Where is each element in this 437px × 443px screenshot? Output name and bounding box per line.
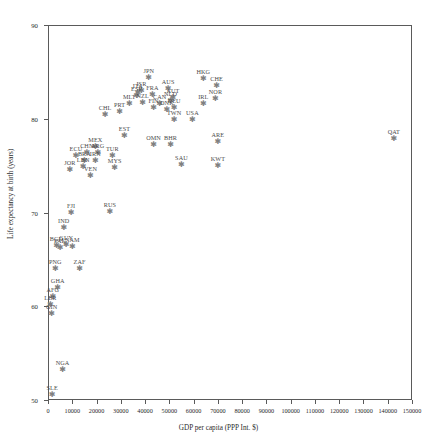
x-axis-label: GDP per capita (PPP Int. $)	[0, 424, 437, 432]
point-label: USA	[186, 109, 199, 115]
y-tick	[44, 213, 48, 214]
point-label: OMN	[146, 135, 161, 141]
x-tick-label: 30000	[113, 407, 128, 414]
y-tick-label: 70	[22, 209, 38, 216]
y-axis-label: Life expectancy at birth (years)	[7, 104, 15, 284]
x-tick	[48, 400, 49, 404]
x-tick-label: 140000	[378, 407, 397, 414]
point-label: DNK	[160, 100, 174, 106]
x-tick-label: 100000	[281, 407, 300, 414]
x-tick-label: 0	[46, 407, 49, 414]
point-label: BHR	[164, 135, 177, 141]
point-label: VEN	[84, 166, 97, 172]
y-tick	[44, 306, 48, 307]
point-label: ZAF	[74, 259, 86, 265]
point-label: SAU	[175, 154, 188, 160]
point-label: IRN	[90, 151, 101, 157]
scatter-point: ✱	[215, 162, 222, 170]
x-tick-label: 10000	[65, 407, 80, 414]
x-tick-label: 20000	[89, 407, 104, 414]
x-tick	[194, 400, 195, 404]
point-label: QAT	[388, 129, 400, 135]
x-tick-label: 60000	[186, 407, 201, 414]
point-label: SLE	[46, 385, 57, 391]
x-tick-label: 150000	[403, 407, 422, 414]
scatter-point: ✱	[212, 95, 219, 103]
scatter-point: ✱	[200, 100, 207, 108]
point-label: LBR	[44, 295, 56, 301]
scatter-point: ✱	[116, 108, 123, 116]
point-label: ARE	[212, 132, 225, 138]
scatter-point: ✱	[59, 366, 66, 374]
scatter-point: ✱	[200, 75, 207, 83]
scatter-point: ✱	[150, 104, 157, 112]
scatter-point: ✱	[171, 116, 178, 124]
point-label: ARG	[91, 143, 104, 149]
x-tick	[169, 400, 170, 404]
scatter-point: ✱	[121, 132, 128, 140]
scatter-point: ✱	[390, 135, 397, 143]
point-label: JOR	[64, 160, 75, 166]
scatter-points-layer: ✱JPN✱HKG✱CHE✱ISR✱AUS✱ITA✱ESP✱FRA✱AUT✱NOR…	[48, 25, 412, 400]
scatter-point: ✱	[139, 99, 146, 107]
x-tick	[218, 400, 219, 404]
point-label: FIN	[148, 98, 158, 104]
x-tick	[388, 400, 389, 404]
point-label: NZL	[136, 93, 148, 99]
point-label: RUS	[104, 201, 116, 207]
scatter-point: ✱	[66, 166, 73, 174]
point-label: EST	[119, 125, 130, 131]
point-label: TUR	[106, 146, 119, 152]
point-label: JPN	[143, 68, 154, 74]
x-tick-label: 120000	[330, 407, 349, 414]
y-tick-label: 80	[22, 115, 38, 122]
y-tick-label: 90	[22, 22, 38, 29]
point-label: MLT	[123, 94, 136, 100]
x-tick	[412, 400, 413, 404]
point-label: AUS	[162, 79, 175, 85]
y-tick-label: 60	[22, 303, 38, 310]
point-label: BGD	[50, 236, 63, 242]
x-tick	[145, 400, 146, 404]
point-label: MYS	[108, 158, 122, 164]
scatter-point: ✱	[178, 161, 185, 169]
point-label: NAM	[65, 237, 80, 243]
point-label: IRL	[198, 94, 208, 100]
scatter-point: ✱	[60, 224, 67, 232]
scatter-point: ✱	[126, 100, 133, 108]
point-label: NOR	[209, 89, 222, 95]
x-tick-label: 130000	[354, 407, 373, 414]
x-tick	[97, 400, 98, 404]
point-label: FJI	[67, 202, 75, 208]
point-label: TWN	[167, 109, 181, 115]
x-tick-label: 50000	[162, 407, 177, 414]
y-tick	[44, 25, 48, 26]
point-label: HKG	[196, 69, 210, 75]
scatter-point: ✱	[57, 244, 64, 252]
scatter-point: ✱	[102, 111, 109, 119]
point-label: NGA	[56, 360, 70, 366]
x-tick	[266, 400, 267, 404]
point-label: PNG	[49, 259, 62, 265]
point-label: KWT	[211, 155, 225, 161]
scatter-point: ✱	[76, 265, 83, 273]
point-label: AFG	[47, 287, 60, 293]
x-tick-label: 40000	[137, 407, 152, 414]
scatter-point: ✱	[150, 141, 157, 149]
point-label: CHE	[210, 76, 223, 82]
x-tick	[121, 400, 122, 404]
scatter-point: ✱	[49, 391, 56, 399]
scatter-point: ✱	[52, 265, 59, 273]
scatter-point: ✱	[107, 208, 114, 216]
scatter-point: ✱	[215, 138, 222, 146]
scatter-point: ✱	[167, 141, 174, 149]
x-tick	[72, 400, 73, 404]
point-label: IND	[58, 218, 69, 224]
point-label: FRA	[146, 85, 158, 91]
scatter-point: ✱	[189, 116, 196, 124]
x-tick	[242, 400, 243, 404]
y-tick	[44, 119, 48, 120]
x-tick-label: 110000	[306, 407, 324, 414]
chart-page: ✱JPN✱HKG✱CHE✱ISR✱AUS✱ITA✱ESP✱FRA✱AUT✱NOR…	[0, 0, 437, 443]
x-tick-label: 80000	[234, 407, 249, 414]
